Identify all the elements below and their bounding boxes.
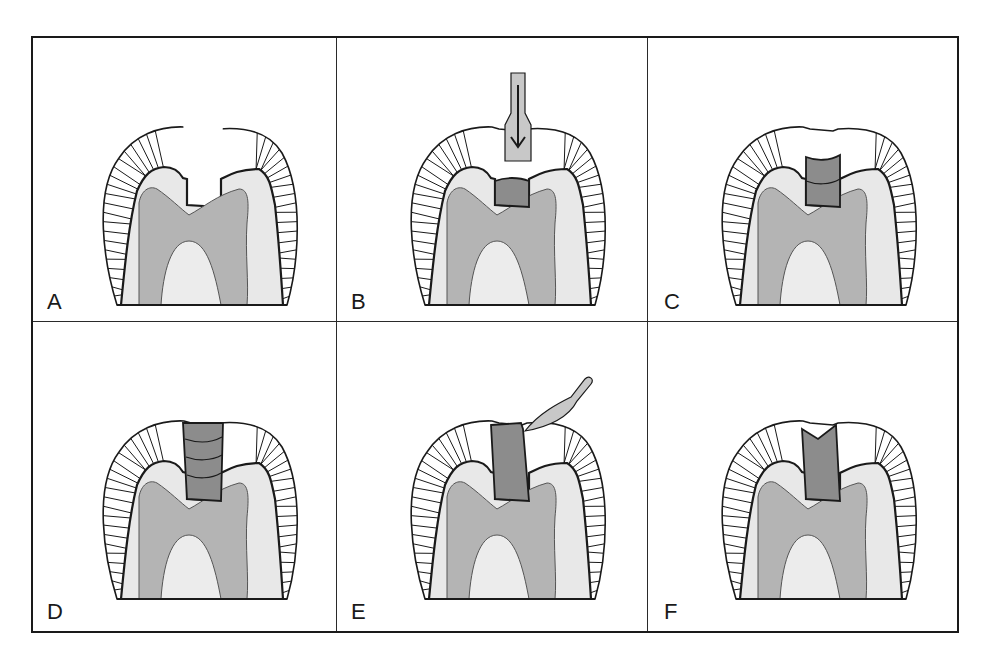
panel-a: A xyxy=(33,38,336,321)
carver-instrument xyxy=(525,377,592,431)
tooth xyxy=(722,127,916,305)
restoration xyxy=(802,425,840,501)
tooth-diagram-f xyxy=(648,322,959,633)
panel-label-d: D xyxy=(47,601,63,623)
restoration-material xyxy=(183,423,223,501)
tooth-diagram-a xyxy=(33,38,336,321)
tooth xyxy=(103,121,297,305)
panel-b: B xyxy=(337,38,647,321)
panel-label-f: F xyxy=(664,601,677,623)
carver-blade xyxy=(525,377,592,431)
restoration xyxy=(491,423,529,501)
panel-label-b: B xyxy=(351,291,366,313)
restoration xyxy=(495,178,529,207)
panel-e: E xyxy=(337,322,647,633)
tooth-diagram-c xyxy=(648,38,959,321)
restoration-material xyxy=(491,423,529,501)
tooth xyxy=(103,421,297,599)
plugger-instrument xyxy=(505,73,531,161)
restoration-material xyxy=(495,178,529,207)
tooth-diagram-b xyxy=(337,38,647,321)
panel-label-e: E xyxy=(351,601,366,623)
panel-label-a: A xyxy=(47,291,62,313)
panel-c: C xyxy=(648,38,959,321)
cavity-opening xyxy=(183,121,223,207)
panel-f: F xyxy=(648,322,959,633)
tooth-diagram-e xyxy=(337,322,647,633)
tooth xyxy=(411,377,605,599)
tooth-diagram-d xyxy=(33,322,336,633)
six-panel-figure: A B C D E F xyxy=(31,36,959,633)
restoration-material xyxy=(802,425,840,501)
tooth xyxy=(722,421,916,599)
tooth xyxy=(411,73,605,305)
panel-label-c: C xyxy=(664,291,680,313)
restoration xyxy=(806,155,840,207)
restoration xyxy=(183,423,223,501)
panel-d: D xyxy=(33,322,336,633)
